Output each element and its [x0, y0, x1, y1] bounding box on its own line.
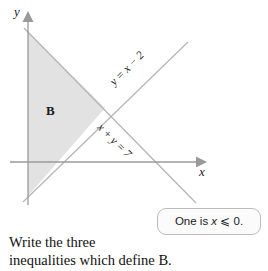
hint-suffix: ⩽ 0. [217, 215, 243, 227]
question-prompt-line-2: inequalities which define B. [9, 252, 189, 270]
x-axis-label: x [199, 165, 205, 178]
shaded-region-b [28, 32, 105, 196]
question-prompt-line-1: Write the three [9, 234, 189, 252]
coordinate-plot [0, 0, 268, 215]
hint-callout-text: One is x ⩽ 0. [175, 216, 243, 228]
y-axis-label: y [14, 5, 20, 18]
question-prompt: Write the three inequalities which defin… [9, 234, 189, 269]
region-label-b: B [46, 104, 55, 117]
y-axis-arrowhead [23, 11, 34, 22]
hint-prefix: One is [175, 215, 211, 227]
hint-callout: One is x ⩽ 0. [157, 208, 261, 235]
